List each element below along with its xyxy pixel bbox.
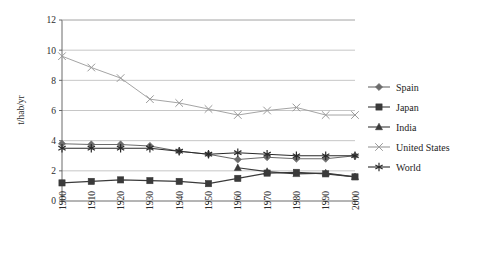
legend: SpainJapanIndiaUnited StatesWorld: [368, 82, 450, 173]
x-tick-label-1960: 1960: [233, 191, 243, 210]
legend-label-2: India: [396, 122, 417, 133]
x-tick-label-1970: 1970: [263, 191, 273, 210]
legend-marker-square-icon: [376, 104, 382, 110]
chart-page: 024681012t/hab/yr19001910192019301940195…: [0, 0, 478, 253]
x-tick-label-1900: 1900: [58, 191, 68, 210]
x-tick-label-1910: 1910: [87, 191, 97, 210]
point-japan-1920: [118, 177, 124, 183]
point-japan-1900: [59, 180, 65, 186]
point-india-1960: [234, 164, 241, 171]
legend-label-3: United States: [396, 142, 450, 153]
point-japan-1950: [205, 181, 211, 187]
y-tick-label-6: 6: [51, 106, 56, 116]
legend-label-1: Japan: [396, 102, 419, 113]
x-tick-label-1980: 1980: [292, 191, 302, 210]
point-japan-1940: [176, 178, 182, 184]
y-tick-label-10: 10: [47, 46, 57, 56]
x-tick-label-1950: 1950: [204, 191, 214, 210]
series-world: [58, 144, 358, 160]
y-tick-label-8: 8: [51, 76, 56, 86]
x-tick-label-2000: 2000: [351, 191, 361, 210]
point-spain-1960: [234, 156, 241, 163]
y-axis-title: t/hab/yr: [16, 94, 26, 124]
series-india: [234, 164, 358, 180]
point-japan-1960: [235, 175, 241, 181]
x-tick-label-1940: 1940: [175, 191, 185, 210]
x-tick-label-1990: 1990: [321, 191, 331, 210]
x-tick-label-1930: 1930: [145, 191, 155, 210]
y-tick-label-4: 4: [51, 136, 56, 146]
series-line-united-states: [62, 56, 355, 115]
point-united-states-1950: [205, 105, 213, 113]
series-japan: [59, 169, 358, 187]
legend-item-india[interactable]: India: [368, 122, 417, 133]
y-tick-label-0: 0: [51, 196, 56, 206]
line-chart: 024681012t/hab/yr19001910192019301940195…: [0, 0, 478, 253]
legend-marker-diamond-icon: [375, 83, 382, 90]
legend-label-0: Spain: [396, 82, 419, 93]
legend-item-united-states[interactable]: United States: [368, 142, 450, 153]
point-japan-1910: [88, 178, 94, 184]
series-united-states: [58, 52, 359, 118]
legend-label-4: World: [396, 162, 421, 173]
x-tick-label-1920: 1920: [116, 191, 126, 210]
legend-item-world[interactable]: World: [368, 162, 421, 173]
point-japan-1930: [147, 178, 153, 184]
point-united-states-1910: [88, 64, 96, 72]
y-tick-label-12: 12: [47, 15, 57, 25]
y-tick-label-2: 2: [51, 166, 56, 176]
legend-item-spain[interactable]: Spain: [368, 82, 419, 93]
legend-item-japan[interactable]: Japan: [368, 102, 419, 113]
